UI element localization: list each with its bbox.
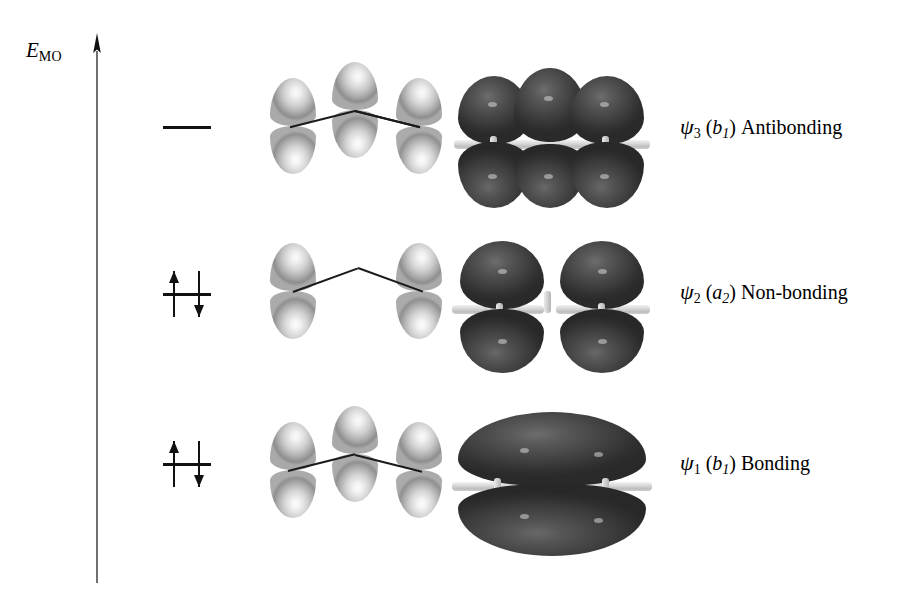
mo-level-row-psi2: ψ2 (a2) Non-bonding <box>0 233 898 363</box>
symmetry-letter: b <box>712 452 722 474</box>
psi-symbol: ψ <box>680 279 694 304</box>
p-lobe-top <box>396 78 442 126</box>
p-lobe-bottom <box>396 291 442 339</box>
mo-label-psi3: ψ3 (b1) Antibonding <box>680 114 842 142</box>
p-lobe-bottom <box>270 291 316 339</box>
surface-lobe-lower-left <box>460 309 544 373</box>
surface-lobe-upper-left <box>460 241 544 309</box>
p-lobe-bottom <box>270 126 316 174</box>
bonding-character: Antibonding <box>741 116 842 138</box>
p-lobe-bottom <box>396 126 442 174</box>
symmetry-letter: a <box>712 281 722 303</box>
p-lobe-bottom <box>332 110 378 158</box>
psi-index: 2 <box>694 291 701 306</box>
electron-arrow-up <box>168 441 179 487</box>
mo-label-psi1: ψ1 (b1) Bonding <box>680 450 810 478</box>
bond-stick-center <box>544 291 551 313</box>
p-orbital-schematic-psi2 <box>262 233 452 363</box>
surface-lobe-upper-right <box>570 76 644 144</box>
surface-lobe-lower <box>458 484 646 556</box>
p-lobe-bottom <box>270 470 316 518</box>
energy-axis-symbol: E <box>26 38 39 62</box>
psi-symbol: ψ <box>680 114 694 139</box>
surface-lobe-upper <box>458 412 646 486</box>
energy-axis-label: EMO <box>26 38 62 65</box>
energy-level-cell-psi1 <box>150 400 230 560</box>
p-lobe-top <box>270 422 316 470</box>
isosurface-render-psi3 <box>452 62 652 202</box>
psi-index: 1 <box>694 462 701 477</box>
surface-lobe-lower-right <box>560 309 644 373</box>
p-lobe-top <box>396 422 442 470</box>
surface-lobe-lower-right <box>570 142 644 208</box>
energy-level-cell-psi2 <box>150 233 230 363</box>
p-orbital-schematic-psi1 <box>262 400 452 560</box>
p-lobe-top <box>332 406 378 454</box>
p-lobe-top <box>332 62 378 110</box>
symmetry-close-paren: ) <box>729 281 736 303</box>
isosurface-render-psi1 <box>452 400 652 560</box>
symmetry-letter: b <box>712 116 722 138</box>
symmetry-close-paren: ) <box>729 116 736 138</box>
p-orbital-schematic-psi3 <box>262 62 452 202</box>
energy-level-cell-psi3 <box>150 62 230 202</box>
psi-index: 3 <box>694 126 701 141</box>
mo-level-row-psi3: ψ3 (b1) Antibonding <box>0 62 898 202</box>
mo-energy-diagram: EMO <box>0 0 898 599</box>
p-lobe-bottom <box>396 470 442 518</box>
psi-symbol: ψ <box>680 450 694 475</box>
electron-arrow-up <box>168 271 179 317</box>
surface-lobe-upper-right <box>560 241 644 309</box>
mo-level-row-psi1: ψ1 (b1) Bonding <box>0 400 898 560</box>
symmetry-close-paren: ) <box>729 452 736 474</box>
bonding-character: Non-bonding <box>741 281 848 303</box>
energy-level-line-psi3 <box>163 126 211 129</box>
isosurface-render-psi2 <box>452 233 652 363</box>
p-lobe-top <box>270 78 316 126</box>
p-lobe-bottom <box>332 454 378 502</box>
mo-label-psi2: ψ2 (a2) Non-bonding <box>680 279 848 307</box>
electron-arrow-down <box>193 271 204 317</box>
bonding-character: Bonding <box>741 452 810 474</box>
electron-arrow-down <box>193 441 204 487</box>
